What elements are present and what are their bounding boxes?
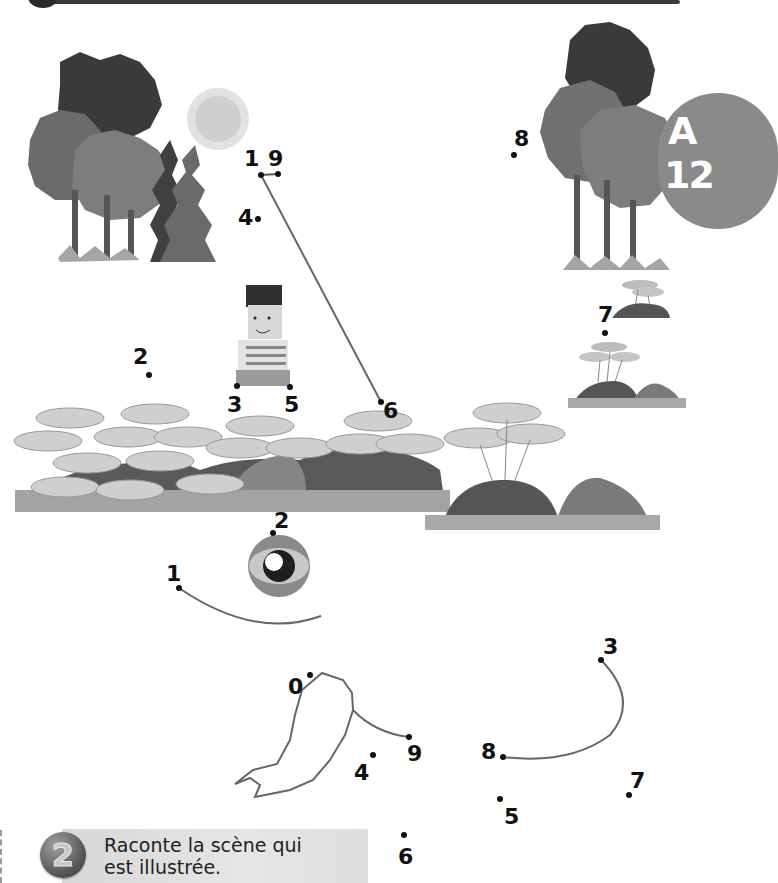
top-dot-7[interactable]	[602, 330, 608, 336]
exercise-number: 2	[40, 834, 86, 876]
top-number-label: 5	[284, 394, 299, 416]
bottom-number-label: 0	[288, 676, 303, 698]
bottom-dot-1[interactable]	[176, 585, 182, 591]
line-0-9	[353, 710, 409, 737]
top-dot-8[interactable]	[511, 152, 517, 158]
bottom-dot-4[interactable]	[370, 752, 376, 758]
curve-3-8	[503, 660, 623, 759]
instruction-line-2: est illustrée.	[104, 856, 302, 878]
page-edge	[0, 830, 5, 883]
bottom-dot-8[interactable]	[500, 754, 506, 760]
bottom-number-label: 2	[274, 510, 289, 532]
badge-number: 12	[664, 156, 713, 194]
instruction-text: Raconte la scène qui est illustrée.	[104, 834, 302, 878]
bottom-dot-3[interactable]	[598, 657, 604, 663]
bottom-dot-6[interactable]	[401, 832, 407, 838]
top-number-label: 4	[238, 207, 253, 229]
bottom-number-label: 1	[166, 563, 181, 585]
bottom-number-label: 3	[603, 636, 618, 658]
right-trees-icon	[540, 22, 678, 270]
bottom-number-label: 5	[504, 806, 519, 828]
top-dot-2[interactable]	[146, 372, 152, 378]
top-number-label: 9	[268, 148, 283, 170]
bottom-dot-7[interactable]	[626, 792, 632, 798]
bottom-dot-0[interactable]	[307, 672, 313, 678]
sun-icon	[187, 88, 249, 150]
left-trees-icon	[28, 52, 216, 262]
bottom-dot-2[interactable]	[270, 530, 276, 536]
small-flower-patch-bottom-icon	[568, 342, 686, 408]
bottom-number-label: 8	[481, 741, 496, 763]
top-number-label: 3	[227, 394, 242, 416]
bottom-number-label: 7	[630, 770, 645, 792]
flower-field-right-icon	[425, 403, 660, 530]
top-number-label: 6	[383, 400, 398, 422]
top-dot-9[interactable]	[275, 171, 281, 177]
bottom-number-label: 6	[398, 846, 413, 868]
boy-figure-icon	[236, 285, 290, 386]
top-dot-4[interactable]	[255, 216, 261, 222]
eye-icon	[248, 535, 310, 597]
instruction-line-1: Raconte la scène qui	[104, 834, 302, 856]
bottom-dot-5[interactable]	[497, 796, 503, 802]
small-flower-patch-top-icon	[612, 280, 670, 318]
bottom-number-label: 9	[407, 743, 422, 765]
top-dot-5[interactable]	[287, 384, 293, 390]
top-number-label: 2	[133, 346, 148, 368]
top-number-label: 1	[244, 148, 259, 170]
badge-letter: A	[668, 112, 697, 150]
top-dot-6[interactable]	[378, 399, 384, 405]
top-dot-3[interactable]	[234, 383, 240, 389]
bottom-number-label: 4	[354, 762, 369, 784]
top-number-label: 7	[598, 304, 613, 326]
curve-1-mouth	[179, 588, 321, 624]
top-number-label: 8	[514, 128, 529, 150]
bottom-dot-9[interactable]	[406, 734, 412, 740]
top-dot-1[interactable]	[258, 172, 264, 178]
